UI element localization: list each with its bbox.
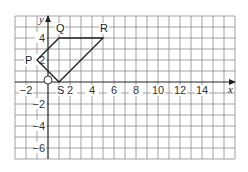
vertex-label-p: P <box>25 54 32 66</box>
x-tick-label: −2 <box>20 84 33 96</box>
y-axis-label: y <box>38 13 44 25</box>
x-tick-label: 14 <box>196 84 208 96</box>
x-axis-label: x <box>227 83 233 95</box>
y-tick-label: 4 <box>39 32 45 44</box>
x-tick-label: 12 <box>174 84 186 96</box>
y-tick-label: −2 <box>32 98 45 110</box>
vertex-label-s: S <box>57 84 64 96</box>
x-tick-label: 4 <box>89 84 95 96</box>
vertex-label-r: R <box>100 22 108 34</box>
y-tick-label: −6 <box>32 142 45 154</box>
vertex-label-q: Q <box>56 22 65 34</box>
y-tick-label: −4 <box>32 120 45 132</box>
x-tick-label: 8 <box>133 84 139 96</box>
x-tick-label: 6 <box>111 84 117 96</box>
x-tick-label: 10 <box>152 84 164 96</box>
origin-label <box>44 76 52 84</box>
x-tick-label: 2 <box>67 84 73 96</box>
coordinate-grid: xy −2246810121442−2−4−6 PQRS <box>0 0 248 172</box>
